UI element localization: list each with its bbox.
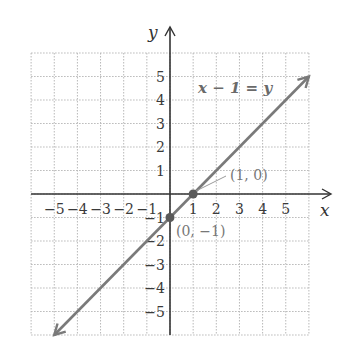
equation-label: x − 1 = y	[197, 79, 273, 97]
point-a-label: (1, 0)	[230, 167, 268, 183]
x-tick-label: −5	[44, 201, 65, 217]
coordinate-plane-chart: −5−4−3−2−112345 −5−4−3−2−112345 y x x − …	[0, 0, 352, 357]
x-tick-label: 5	[281, 201, 290, 217]
y-tick-label: −1	[144, 210, 165, 226]
x-tick-label: −2	[113, 201, 134, 217]
y-tick-label: 3	[156, 116, 165, 132]
x-tick-label: −3	[90, 201, 111, 217]
data-point	[166, 213, 175, 222]
y-tick-label: −4	[144, 280, 165, 296]
y-tick-label: 1	[156, 163, 165, 179]
point-a-leader-line	[196, 176, 226, 191]
x-tick-label: 1	[189, 201, 198, 217]
y-tick-label: 2	[156, 139, 165, 155]
y-tick-label: 5	[156, 69, 165, 85]
x-tick-label: −4	[67, 201, 88, 217]
x-tick-label: 2	[212, 201, 221, 217]
x-tick-label: 3	[235, 201, 244, 217]
x-axis-label: x	[320, 200, 330, 220]
y-axis-label: y	[147, 22, 158, 42]
y-tick-label: −3	[144, 257, 165, 273]
y-tick-label: 4	[156, 92, 165, 108]
axes	[31, 27, 331, 335]
y-tick-label: −5	[144, 304, 165, 320]
x-tick-label: 4	[258, 201, 267, 217]
point-b-label: (0, −1)	[176, 223, 225, 239]
